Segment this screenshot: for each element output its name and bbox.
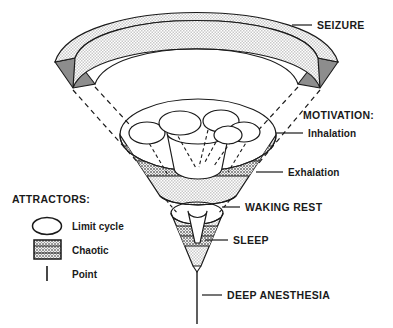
legend-swatch-ellipse-outline-icon xyxy=(33,218,62,235)
connector-right-outer xyxy=(258,90,320,164)
motivation-funnel-group xyxy=(110,99,286,205)
legend-label-limit-cycle: Limit cycle xyxy=(72,221,124,232)
seizure-arc-group xyxy=(55,13,338,89)
legend-heading: ATTRACTORS: xyxy=(12,193,90,205)
label-waking-rest: WAKING REST xyxy=(245,201,323,213)
label-seizure: SEIZURE xyxy=(317,19,365,31)
legend-label-chaotic: Chaotic xyxy=(72,245,109,256)
motivation-limit-cycles xyxy=(129,110,260,144)
label-deep-anesthesia: DEEP ANESTHESIA xyxy=(227,289,330,301)
legend-label-point: Point xyxy=(72,269,98,280)
attractor-funnel-diagram: SEIZURE MOTIVATION: Inhalation Exhalatio… xyxy=(0,0,393,328)
label-exhalation: Exhalation xyxy=(288,167,340,178)
legend-swatch-stippled-square-icon xyxy=(34,240,61,259)
attractors-legend: ATTRACTORS: Limit cycle Chaotic Point xyxy=(12,193,124,281)
label-motivation-heading: MOTIVATION: xyxy=(303,109,374,121)
diagram-canvas: SEIZURE MOTIVATION: Inhalation Exhalatio… xyxy=(0,0,393,328)
label-sleep: SLEEP xyxy=(233,234,269,246)
waking-rest-funnel-group xyxy=(165,202,231,272)
limit-cycle-ellipse-2 xyxy=(159,111,201,135)
label-inhalation: Inhalation xyxy=(308,128,356,139)
limit-cycle-ellipse-5 xyxy=(214,126,242,144)
